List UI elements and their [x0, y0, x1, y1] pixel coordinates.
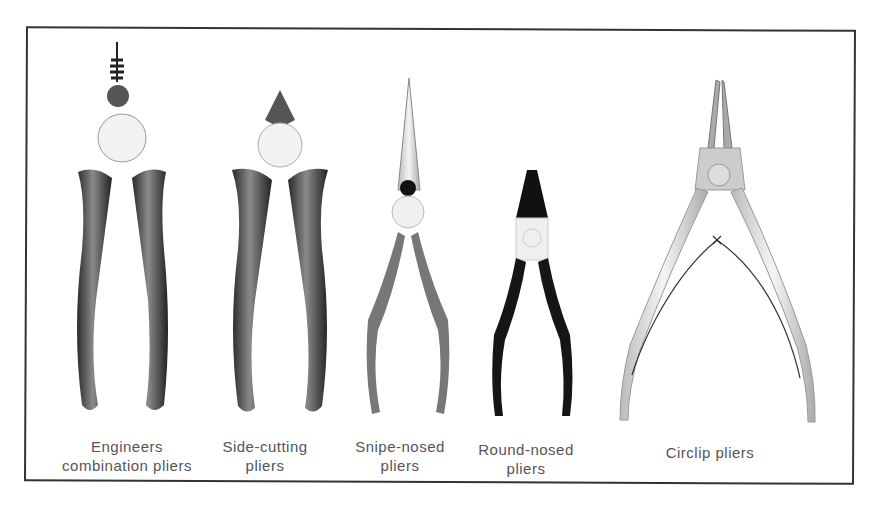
circlip-pliers — [620, 80, 815, 422]
caption-side-cutting: Side-cutting pliers — [205, 437, 325, 475]
caption-line: pliers — [205, 456, 325, 475]
caption-line: Engineers — [52, 437, 202, 456]
caption-round-nosed: Round-nosed pliers — [466, 440, 586, 478]
pivot-ball-icon — [107, 85, 129, 107]
caption-line: Side-cutting — [205, 437, 325, 456]
caption-snipe-nosed: Snipe-nosed pliers — [340, 437, 460, 475]
snipe-nosed-pliers — [367, 78, 450, 414]
engineers-combination-pliers — [77, 42, 168, 410]
caption-line: combination pliers — [52, 456, 202, 475]
pliers-illustration — [0, 0, 880, 510]
round-nosed-pliers — [492, 170, 572, 416]
caption-line: Circlip pliers — [640, 443, 780, 462]
caption-line: Snipe-nosed — [340, 437, 460, 456]
caption-circlip: Circlip pliers — [640, 443, 780, 462]
side-cutting-pliers — [232, 90, 328, 412]
caption-engineers: Engineers combination pliers — [52, 437, 202, 475]
caption-line: pliers — [340, 456, 460, 475]
caption-line: Round-nosed — [466, 440, 586, 459]
caption-line: pliers — [466, 459, 586, 478]
